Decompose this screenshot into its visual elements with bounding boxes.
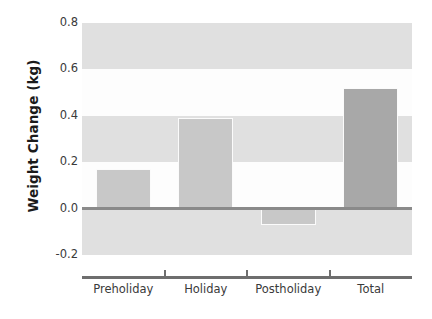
y-axis-tick-label: 0.8 — [32, 17, 78, 29]
bar-total[interactable] — [343, 88, 398, 209]
x-axis-tick-label: Preholiday — [82, 282, 165, 296]
y-axis-tick-label: -0.2 — [32, 249, 78, 261]
bar-chart: Weight Change (kg) 0.80.60.40.20.0-0.2 P… — [0, 0, 432, 319]
x-axis-tick-label: Total — [330, 282, 413, 296]
bar-preholiday[interactable] — [96, 169, 151, 208]
bar-holiday[interactable] — [178, 118, 233, 208]
y-axis-tick-label: 0.2 — [32, 156, 78, 168]
zero-line — [82, 207, 412, 210]
y-axis-tick-label: 0.0 — [32, 203, 78, 215]
plot-area — [82, 23, 412, 255]
bar-postholiday[interactable] — [261, 209, 316, 225]
grid-band — [82, 209, 412, 255]
y-axis-tick-label: 0.6 — [32, 63, 78, 75]
x-axis-tick-label: Holiday — [165, 282, 248, 296]
y-axis-tick-label: 0.4 — [32, 110, 78, 122]
grid-band — [82, 23, 412, 69]
x-axis-tick-label: Postholiday — [247, 282, 330, 296]
x-axis-tick — [329, 270, 331, 279]
y-axis-tick-labels: 0.80.60.40.20.0-0.2 — [0, 0, 78, 319]
x-axis-tick — [246, 270, 248, 279]
x-axis-tick — [164, 270, 166, 279]
